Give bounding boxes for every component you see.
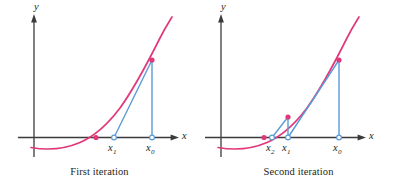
y-axis [218, 14, 224, 157]
y-axis-label: y [221, 1, 226, 12]
marker-open-x1 [112, 135, 117, 140]
x-axis-label: x [182, 130, 187, 141]
panel-second-iteration: y x x2 x1 x0 Second iteration [199, 0, 398, 192]
tick-label-x1: x1 [282, 142, 290, 153]
marker-open-x2 [270, 135, 275, 140]
marker-point-x0-fx0 [149, 57, 154, 62]
function-curve [31, 17, 172, 149]
secant-method-figure: y x x1 x0 First iteration [0, 0, 398, 192]
y-axis-label: y [34, 1, 39, 12]
caption-second-iteration: Second iteration [199, 166, 398, 177]
caption-first-iteration: First iteration [0, 166, 199, 177]
x-axis-label: x [369, 130, 374, 141]
secant-line-x1-x0 [288, 60, 339, 138]
plot-second-iteration [199, 0, 398, 192]
secant-line-x1-x0 [114, 60, 152, 138]
marker-open-x0 [150, 135, 155, 140]
plot-first-iteration [0, 0, 199, 192]
marker-root [261, 135, 266, 140]
tick-label-x1: x1 [108, 142, 116, 153]
marker-open-x1 [286, 135, 291, 140]
marker-open-x0 [337, 135, 342, 140]
tick-label-x0: x0 [146, 142, 154, 153]
y-axis [31, 14, 37, 157]
marker-root [93, 135, 98, 140]
marker-point-x0-fx0 [336, 57, 341, 62]
tick-label-x2: x2 [266, 142, 274, 153]
panel-first-iteration: y x x1 x0 First iteration [0, 0, 199, 192]
tick-label-x0: x0 [333, 142, 341, 153]
marker-point-x1-fx1 [285, 114, 290, 119]
